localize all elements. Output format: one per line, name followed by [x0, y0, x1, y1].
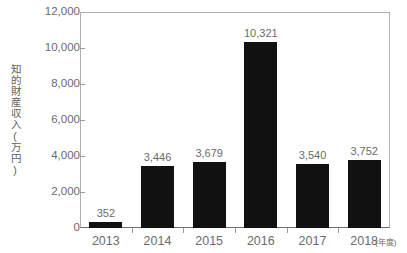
- x-tick-mark: [235, 228, 236, 233]
- bar-2016: [244, 42, 277, 228]
- y-tick-label: 12,000: [30, 6, 80, 18]
- y-tick-label: 10,000: [30, 42, 80, 54]
- bar-2013: [89, 222, 122, 228]
- y-axis-title: 知的財産収入(万円): [2, 64, 20, 176]
- bar-2015: [193, 162, 226, 228]
- x-tick-mark: [132, 228, 133, 233]
- bar-value-2013: 352: [76, 208, 136, 219]
- bar-2017: [296, 164, 329, 228]
- y-tick-label: 8,000: [30, 78, 80, 90]
- x-axis-unit-label: (年度): [375, 238, 396, 247]
- bar-2018: [348, 160, 381, 228]
- x-tick-mark: [338, 228, 339, 233]
- bar-value-2015: 3,679: [179, 148, 239, 159]
- y-tick-label: 2,000: [30, 186, 80, 198]
- x-tick-mark: [287, 228, 288, 233]
- bar-value-2016: 10,321: [231, 28, 291, 39]
- x-tick-mark: [183, 228, 184, 233]
- bar-chart: 知的財産収入(万円) 02,0004,0006,0008,00010,00012…: [0, 0, 407, 253]
- bar-value-2018: 3,752: [334, 146, 394, 157]
- y-tick-label: 0: [30, 222, 80, 234]
- bar-2014: [141, 166, 174, 228]
- bars-layer: [80, 12, 390, 228]
- y-tick-label: 4,000: [30, 150, 80, 162]
- y-tick-label: 6,000: [30, 114, 80, 126]
